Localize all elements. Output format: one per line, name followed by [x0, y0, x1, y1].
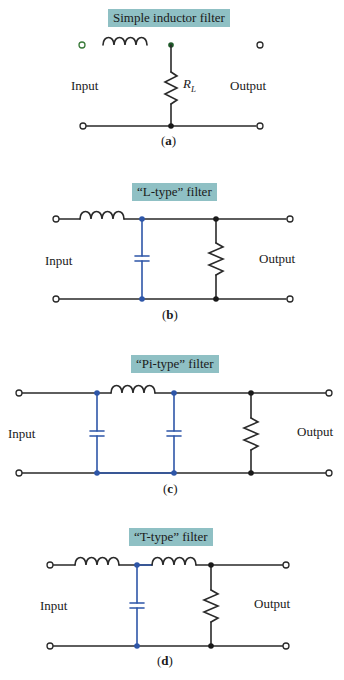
- title-pi-type-filter: “Pi-type” filter: [131, 355, 219, 373]
- terminal-input-bottom: [80, 123, 86, 129]
- input-label: Input: [8, 426, 35, 442]
- input-label: Input: [45, 253, 72, 269]
- capacitor-icon: [135, 219, 149, 299]
- capacitor-icon: [130, 565, 144, 646]
- input-label: Input: [40, 598, 67, 614]
- output-label: Output: [297, 424, 333, 440]
- circuit-d: [47, 558, 289, 650]
- resistor-icon: [209, 243, 223, 275]
- terminal-output-bottom: [257, 123, 263, 129]
- title-simple-inductor-filter: Simple inductor filter: [108, 9, 230, 27]
- capacitor-icon: [90, 393, 104, 473]
- title-l-type-filter: “L-type” filter: [132, 183, 217, 201]
- resistor-icon: [244, 418, 258, 450]
- caption-b: (b): [162, 307, 178, 323]
- inductor-icon: [111, 386, 155, 394]
- inductor-icon: [75, 558, 119, 566]
- caption-a: (a): [161, 133, 176, 149]
- caption-d: (d): [157, 653, 173, 669]
- resistor-icon: [165, 72, 177, 104]
- input-label: Input: [71, 78, 98, 94]
- capacitor-icon: [167, 393, 181, 473]
- title-t-type-filter: “T-type” filter: [129, 528, 213, 546]
- filter-circuits-diagram: [0, 0, 344, 680]
- terminal-output-top: [257, 42, 263, 48]
- output-label: Output: [230, 78, 266, 94]
- load-resistor-label: RL: [183, 76, 196, 94]
- resistor-icon: [204, 590, 218, 622]
- inductor-icon: [152, 558, 196, 566]
- caption-c: (c): [163, 481, 177, 497]
- circuit-b: [53, 212, 293, 303]
- output-label: Output: [259, 251, 295, 267]
- circuit-c: [16, 386, 332, 477]
- inductor-icon: [103, 38, 147, 46]
- terminal-input-top: [79, 42, 85, 48]
- inductor-icon: [80, 212, 124, 220]
- output-label: Output: [254, 596, 290, 612]
